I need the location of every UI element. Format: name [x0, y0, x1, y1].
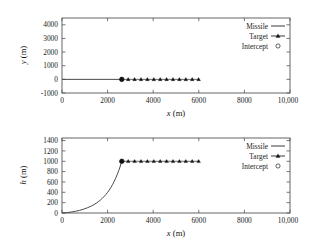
x-ticklabel: 4000 — [146, 216, 161, 225]
x-ticklabel: 6000 — [191, 216, 206, 225]
legend-label-missile: Missile — [246, 22, 268, 31]
y-ticklabel: 4000 — [43, 20, 58, 29]
x-ticklabel: 10,000 — [278, 96, 299, 105]
y-axis-ticklabels-bottom: 0 200 400 600 800 1000 1200 1400 — [43, 136, 58, 217]
missile-series-bottom — [62, 161, 122, 213]
y-axis-ticklabels-top: -1000 0 1000 2000 3000 4000 — [41, 20, 59, 97]
intercept-marker-top — [120, 77, 125, 82]
legend-label-missile: Missile — [246, 142, 268, 151]
x-axis-ticklabels-top: 0 2000 4000 6000 8000 10,000 — [60, 96, 298, 105]
legend-label-target: Target — [249, 32, 269, 41]
chart-panel-lateral: -1000 0 1000 2000 3000 4000 0 2000 4000 … — [0, 0, 321, 120]
y-ticklabel: 200 — [47, 198, 58, 207]
x-axis-title-bottom: x (m) — [166, 228, 186, 238]
x-ticklabel: 8000 — [237, 216, 252, 225]
y-ticklabel: 600 — [47, 178, 58, 187]
x-axis-title-top: x (m) — [166, 108, 186, 118]
y-ticklabel: -1000 — [41, 89, 59, 98]
y-ticklabel: 2000 — [43, 48, 58, 57]
y-ticklabel: 3000 — [43, 34, 58, 43]
y-ticklabel: 0 — [54, 209, 58, 218]
y-ticklabel: 1000 — [43, 61, 58, 70]
x-ticklabel: 6000 — [191, 96, 206, 105]
legend-label-intercept: Intercept — [242, 162, 269, 171]
legend-circle-icon — [276, 44, 280, 48]
intercept-marker-bottom — [120, 159, 125, 164]
y-axis-title-top: y (m) — [18, 46, 28, 66]
legend-label-target: Target — [249, 152, 269, 161]
y-ticklabel: 1000 — [43, 157, 58, 166]
y-ticklabel: 1400 — [43, 136, 58, 145]
legend-circle-icon — [276, 164, 280, 168]
x-ticklabel: 0 — [60, 96, 64, 105]
legend-bottom: Missile Target Intercept — [242, 142, 285, 171]
chart-panel-altitude: 0 200 400 600 800 1000 1200 1400 0 2000 … — [0, 120, 321, 240]
figure-container: -1000 0 1000 2000 3000 4000 0 2000 4000 … — [0, 0, 321, 240]
y-ticklabel: 1200 — [43, 147, 58, 156]
x-axis-unit-bottom: (m) — [171, 228, 186, 238]
x-ticklabel: 10,000 — [278, 216, 299, 225]
x-axis-ticklabels-bottom: 0 2000 4000 6000 8000 10,000 — [60, 216, 298, 225]
x-axis-unit-top: (m) — [171, 108, 186, 118]
y-axis-title-bottom: h (m) — [18, 165, 28, 184]
y-ticklabel: 400 — [47, 188, 58, 197]
y-axis-unit-top: (m) — [18, 46, 28, 61]
legend-label-intercept: Intercept — [242, 42, 269, 51]
x-ticklabel: 4000 — [146, 96, 161, 105]
x-ticklabel: 2000 — [100, 216, 115, 225]
x-ticklabel: 2000 — [100, 96, 115, 105]
y-ticklabel: 800 — [47, 167, 58, 176]
y-axis-unit-bottom: (m) — [18, 165, 28, 180]
lateral-trajectory-plot: -1000 0 1000 2000 3000 4000 0 2000 4000 … — [0, 0, 321, 120]
y-ticklabel: 0 — [54, 75, 58, 84]
x-ticklabel: 0 — [60, 216, 64, 225]
altitude-trajectory-plot: 0 200 400 600 800 1000 1200 1400 0 2000 … — [0, 120, 321, 240]
x-ticklabel: 8000 — [237, 96, 252, 105]
legend-top: Missile Target Intercept — [242, 22, 285, 51]
